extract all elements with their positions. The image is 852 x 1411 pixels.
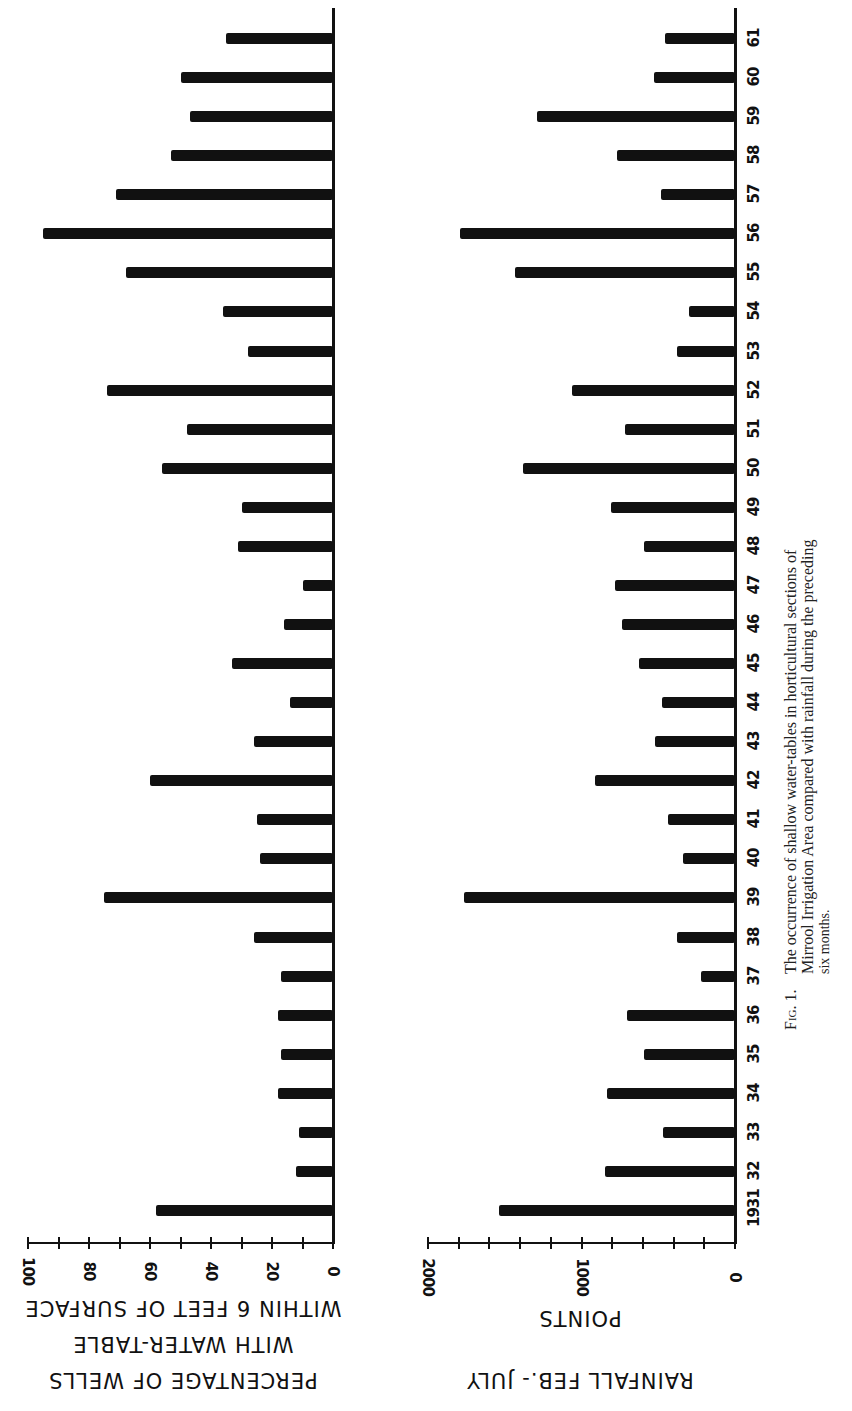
bottom-bar-1951 xyxy=(625,424,735,435)
bottom-bar-1940 xyxy=(683,853,735,864)
bottom-bar-1938 xyxy=(677,932,735,943)
top-bar-1935 xyxy=(281,1049,333,1060)
top-tick-label: 20 xyxy=(263,1257,281,1285)
bottom-bar-1949 xyxy=(611,502,735,513)
top-bar-1961 xyxy=(226,33,333,44)
top-bar-1944 xyxy=(290,697,333,708)
year-label-53: 53 xyxy=(745,334,763,368)
bottom-bar-1946 xyxy=(622,619,735,630)
year-label-38: 38 xyxy=(745,920,763,954)
year-label-47: 47 xyxy=(745,568,763,602)
top-bar-1931 xyxy=(156,1205,333,1216)
top-tick xyxy=(332,1237,334,1249)
top-bar-1947 xyxy=(303,580,334,591)
year-label-50: 50 xyxy=(745,451,763,485)
bottom-bar-1937 xyxy=(701,971,735,982)
top-axis-title-line: PERCENTAGE OF WELLS xyxy=(18,1368,348,1392)
top-bar-1941 xyxy=(257,814,333,825)
year-label-1931: 1931 xyxy=(745,1193,763,1227)
bottom-bar-1944 xyxy=(662,697,735,708)
year-label-43: 43 xyxy=(745,724,763,758)
bottom-bar-1952 xyxy=(572,385,735,396)
bottom-bar-1958 xyxy=(617,150,735,161)
top-axis-title-line: WITHIN 6 FEET OF SURFACE xyxy=(18,1296,348,1320)
top-bar-1943 xyxy=(254,736,333,747)
top-bar-1936 xyxy=(278,1010,333,1021)
bottom-bar-1939 xyxy=(464,892,735,903)
bottom-bar-1960 xyxy=(654,72,735,83)
year-label-33: 33 xyxy=(745,1115,763,1149)
bottom-tick-label: 2000 xyxy=(419,1257,437,1297)
year-label-41: 41 xyxy=(745,802,763,836)
top-bar-1938 xyxy=(254,932,333,943)
top-bar-1949 xyxy=(242,502,334,513)
year-label-37: 37 xyxy=(745,959,763,993)
top-bar-1953 xyxy=(248,346,333,357)
year-label-39: 39 xyxy=(745,880,763,914)
caption-line-3: six months. xyxy=(816,539,833,974)
bottom-tick xyxy=(550,1237,552,1249)
bottom-tick xyxy=(427,1237,429,1249)
top-bar-1939 xyxy=(104,892,333,903)
bottom-bar-1932 xyxy=(605,1166,735,1177)
year-label-48: 48 xyxy=(745,529,763,563)
top-bar-1959 xyxy=(190,111,333,122)
top-chart-baseline xyxy=(332,8,335,1244)
bottom-bar-1936 xyxy=(627,1010,735,1021)
year-label-34: 34 xyxy=(745,1076,763,1110)
top-bar-1954 xyxy=(223,306,333,317)
top-tick xyxy=(180,1237,182,1249)
bottom-tick-label: 0 xyxy=(726,1257,744,1297)
bottom-bar-1934 xyxy=(607,1088,735,1099)
bottom-bar-1933 xyxy=(663,1127,735,1138)
bottom-tick xyxy=(734,1237,736,1249)
bottom-bar-1957 xyxy=(661,189,735,200)
year-label-49: 49 xyxy=(745,490,763,524)
top-bar-1955 xyxy=(126,267,333,278)
caption-line-1: The occurrence of shallow water-tables i… xyxy=(782,539,799,974)
year-label-57: 57 xyxy=(745,177,763,211)
bottom-bar-1941 xyxy=(668,814,735,825)
year-label-61: 61 xyxy=(745,21,763,55)
top-chart-x-axis xyxy=(28,1242,335,1244)
top-bar-1945 xyxy=(232,658,333,669)
top-tick xyxy=(88,1237,90,1249)
top-tick xyxy=(27,1237,29,1249)
top-bar-1937 xyxy=(281,971,333,982)
top-tick xyxy=(58,1237,60,1249)
top-tick xyxy=(210,1237,212,1249)
top-bar-1950 xyxy=(162,463,333,474)
top-bar-1956 xyxy=(43,228,333,239)
top-tick xyxy=(119,1237,121,1249)
year-label-54: 54 xyxy=(745,294,763,328)
year-label-52: 52 xyxy=(745,373,763,407)
year-label-55: 55 xyxy=(745,255,763,289)
bottom-bar-1956 xyxy=(460,228,735,239)
year-label-42: 42 xyxy=(745,763,763,797)
bottom-bar-1959 xyxy=(537,111,735,122)
top-tick-label: 0 xyxy=(324,1257,342,1285)
bottom-bar-1954 xyxy=(689,306,735,317)
top-axis-title-line: WITH WATER-TABLE xyxy=(18,1332,348,1356)
top-tick xyxy=(241,1237,243,1249)
year-label-35: 35 xyxy=(745,1037,763,1071)
caption-line-2: Mirrool Irrigation Area compared with ra… xyxy=(799,539,816,974)
top-bar-1952 xyxy=(107,385,333,396)
bottom-chart-x-axis xyxy=(428,1242,737,1244)
year-label-60: 60 xyxy=(745,60,763,94)
top-bar-1946 xyxy=(284,619,333,630)
bottom-axis-title-rainfall: RAINFALL FEB.- JULY xyxy=(420,1368,740,1392)
bottom-bar-1947 xyxy=(615,580,735,591)
bottom-bar-1955 xyxy=(515,267,735,278)
bottom-tick xyxy=(519,1237,521,1249)
bottom-tick xyxy=(673,1237,675,1249)
top-bar-1933 xyxy=(299,1127,333,1138)
top-bar-1958 xyxy=(171,150,333,161)
top-tick xyxy=(271,1237,273,1249)
top-tick-label: 80 xyxy=(80,1257,98,1285)
bottom-tick xyxy=(642,1237,644,1249)
bottom-tick xyxy=(611,1237,613,1249)
bottom-bar-1950 xyxy=(523,463,735,474)
top-tick-label: 40 xyxy=(202,1257,220,1285)
figure-caption: Fig. 1. The occurrence of shallow water-… xyxy=(782,539,833,1030)
